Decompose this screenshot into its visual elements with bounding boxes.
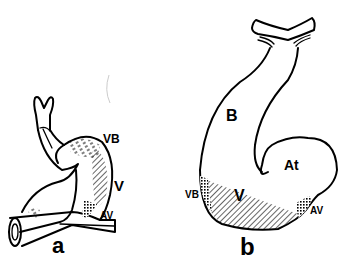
- panel-a: VB V AV a: [9, 97, 124, 258]
- panel-b-label-at: At: [284, 157, 299, 173]
- panel-a-label-av: AV: [100, 210, 113, 221]
- panel-b-label-av: AV: [310, 205, 323, 216]
- figure-canvas: VB V AV a B At VB V AV b: [0, 0, 351, 269]
- panel-b-label-b: B: [226, 107, 238, 124]
- panel-a-label-v: V: [114, 177, 124, 194]
- panel-b-label-v: V: [234, 187, 245, 204]
- panel-a-top-fork: [34, 97, 53, 130]
- panel-b-v-shading: [201, 178, 298, 230]
- panel-a-v-shading: [92, 150, 107, 208]
- panel-b-inner-wall: [255, 48, 298, 172]
- panel-b-label-vb: VB: [185, 189, 199, 200]
- panel-a-label-vb: VB: [103, 132, 120, 146]
- panel-b-caption: b: [240, 233, 255, 260]
- panel-b: B At VB V AV b: [185, 18, 337, 260]
- stray-mark: [107, 75, 110, 103]
- panel-a-caption: a: [52, 233, 65, 258]
